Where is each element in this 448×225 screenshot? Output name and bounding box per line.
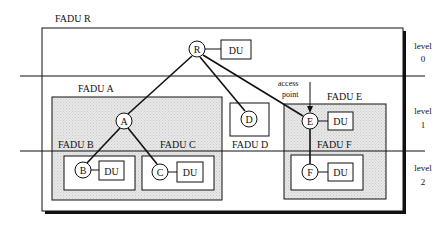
fadu-d-label: FADU D [232,139,268,150]
svg-text:E: E [307,116,313,127]
svg-text:A: A [120,116,128,127]
fadu-a-label: FADU A [78,83,114,94]
svg-text:1: 1 [421,120,426,130]
level-1-label: level 1 [414,106,432,130]
fadu-f-label: FADU F [317,139,352,150]
svg-text:level: level [414,41,432,51]
du-b: DU [99,161,124,180]
svg-text:DU: DU [183,167,198,178]
svg-text:D: D [245,114,252,125]
access-point-label-line1: access [278,79,298,88]
node-c: C [152,164,168,180]
du-r: DU [221,40,251,59]
node-f: F [302,164,318,180]
level-2-label: level 2 [414,163,432,187]
access-point-label-line2: point [282,90,299,99]
svg-text:R: R [194,44,201,55]
fadu-e-label: FADU E [327,91,362,102]
node-e: E [302,113,318,129]
node-a: A [116,113,132,129]
svg-text:C: C [157,167,164,178]
du-e: DU [328,112,353,130]
node-r: R [189,41,205,57]
level-0-label: level 0 [414,41,432,64]
svg-text:level: level [414,163,432,173]
svg-text:DU: DU [333,116,348,127]
fadu-r-label: FADU R [55,13,91,24]
svg-text:DU: DU [333,167,348,178]
svg-text:F: F [307,167,313,178]
du-c: DU [177,162,203,182]
svg-text:2: 2 [421,177,426,187]
svg-text:DU: DU [104,166,119,177]
svg-text:DU: DU [229,45,244,56]
node-d: D [241,111,257,127]
fadu-b-label: FADU B [58,139,94,150]
svg-text:0: 0 [421,54,426,64]
fadu-c-label: FADU C [160,139,196,150]
fadu-hierarchy-diagram: FADU R FADU A FADU E FADU D FADU B FADU … [0,0,448,225]
du-f: DU [328,163,353,181]
svg-text:level: level [414,106,432,116]
node-b: B [75,162,91,178]
svg-text:B: B [80,165,87,176]
